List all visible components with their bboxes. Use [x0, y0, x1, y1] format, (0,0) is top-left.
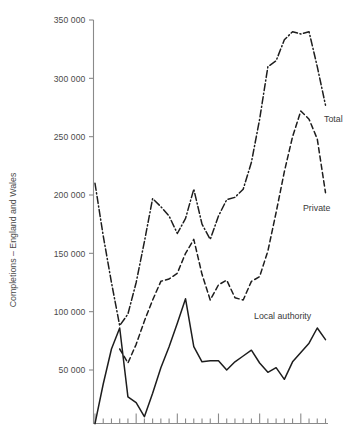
y-tick-label: 150 000	[54, 249, 86, 259]
series-label-total: Total	[324, 114, 343, 124]
series-line-total	[95, 32, 326, 326]
series-label-local-authority: Local authority	[254, 311, 312, 321]
y-axis: 350 000300 000250 000200 000150 000100 0…	[54, 15, 94, 424]
y-tick-label: 300 000	[54, 74, 86, 84]
y-tick-label: 100 000	[54, 307, 86, 317]
x-axis	[94, 414, 329, 424]
series-group	[95, 32, 326, 424]
y-tick-label: 50 000	[59, 365, 86, 375]
y-tick-label: 200 000	[54, 190, 86, 200]
y-tick-label: 250 000	[54, 132, 86, 142]
series-labels: Total Private Local authority	[254, 114, 343, 321]
completions-line-chart: 350 000300 000250 000200 000150 000100 0…	[0, 0, 358, 431]
chart-container: 350 000300 000250 000200 000150 000100 0…	[0, 0, 358, 431]
series-line-private	[120, 111, 326, 363]
y-tick-label: 350 000	[54, 15, 86, 25]
y-tick-group: 350 000300 000250 000200 000150 000100 0…	[54, 15, 94, 375]
x-tick-group	[95, 414, 326, 424]
series-label-private: Private	[303, 203, 330, 213]
y-axis-title: Completions – England and Wales	[8, 172, 18, 307]
